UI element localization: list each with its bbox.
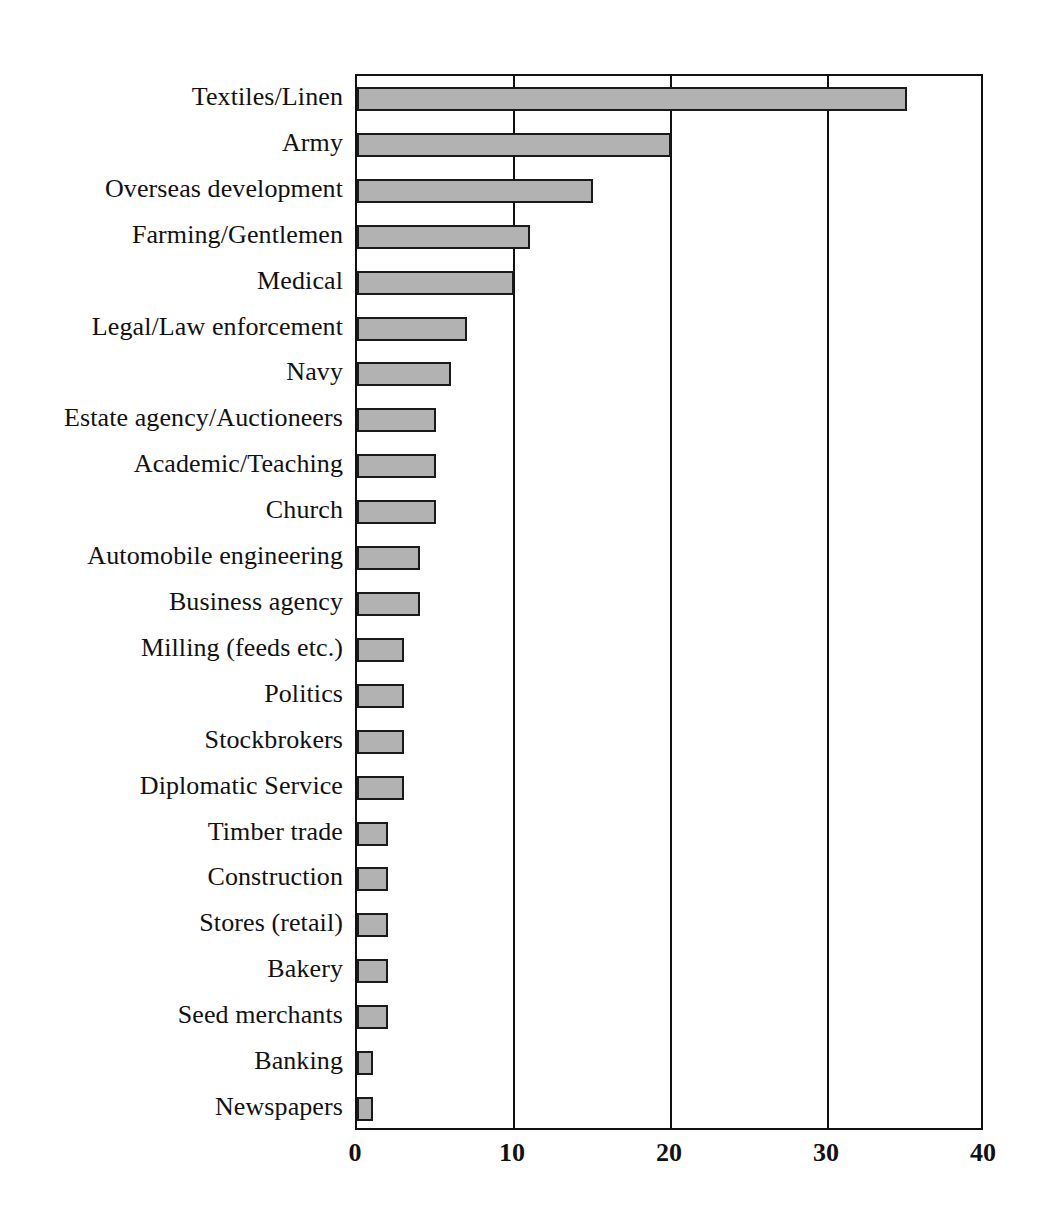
bar — [357, 1051, 373, 1075]
category-label: Estate agency/Auctioneers — [0, 405, 349, 431]
bar — [357, 179, 593, 203]
category-label: Overseas development — [0, 176, 349, 202]
bar — [357, 225, 530, 249]
bar — [357, 822, 388, 846]
bar — [357, 913, 388, 937]
category-label: Bakery — [0, 956, 349, 982]
bar — [357, 1005, 388, 1029]
category-label: Stockbrokers — [0, 727, 349, 753]
x-tick-label: 40 — [970, 1138, 996, 1168]
category-label: Business agency — [0, 589, 349, 615]
category-label: Banking — [0, 1048, 349, 1074]
bar — [357, 730, 404, 754]
category-label: Stores (retail) — [0, 910, 349, 936]
bar — [357, 317, 467, 341]
bar — [357, 546, 420, 570]
bar — [357, 959, 388, 983]
category-label: Textiles/Linen — [0, 84, 349, 110]
x-axis-tick-labels: 010203040 — [0, 1138, 1055, 1182]
bar — [357, 638, 404, 662]
bar — [357, 408, 436, 432]
plot-area — [355, 74, 983, 1130]
category-label: Army — [0, 130, 349, 156]
bar — [357, 454, 436, 478]
x-tick-label: 0 — [349, 1138, 362, 1168]
category-label: Church — [0, 497, 349, 523]
category-label: Politics — [0, 681, 349, 707]
category-label: Milling (feeds etc.) — [0, 635, 349, 661]
bar — [357, 87, 907, 111]
category-label: Automobile engineering — [0, 543, 349, 569]
category-label: Newspapers — [0, 1094, 349, 1120]
category-label: Diplomatic Service — [0, 773, 349, 799]
bars-container — [357, 76, 981, 1128]
bar-chart: Textiles/LinenArmyOverseas developmentFa… — [0, 0, 1055, 1230]
bar — [357, 133, 671, 157]
bar — [357, 500, 436, 524]
x-tick-label: 20 — [656, 1138, 682, 1168]
bar — [357, 592, 420, 616]
bar — [357, 776, 404, 800]
category-label: Farming/Gentlemen — [0, 222, 349, 248]
x-tick-label: 30 — [813, 1138, 839, 1168]
bar — [357, 684, 404, 708]
category-label: Legal/Law enforcement — [0, 314, 349, 340]
bar — [357, 867, 388, 891]
category-label: Navy — [0, 359, 349, 385]
category-label: Academic/Teaching — [0, 451, 349, 477]
category-label: Medical — [0, 268, 349, 294]
category-label: Seed merchants — [0, 1002, 349, 1028]
bar — [357, 362, 451, 386]
category-axis-labels: Textiles/LinenArmyOverseas developmentFa… — [0, 74, 349, 1130]
x-tick-label: 10 — [499, 1138, 525, 1168]
bar — [357, 271, 514, 295]
category-label: Construction — [0, 864, 349, 890]
bar — [357, 1097, 373, 1121]
category-label: Timber trade — [0, 819, 349, 845]
